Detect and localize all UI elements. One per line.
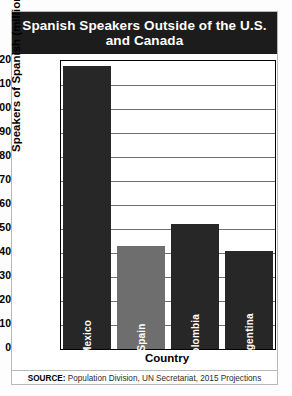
x-axis-label: Country [60,352,274,364]
y-tick-label: 70 [0,173,11,185]
chart-area: Speakers of Spanish (millions) MexicoSpa… [12,56,277,356]
bar-series: MexicoSpainColombiaArgentina [61,61,275,349]
bar-argentina[interactable]: Argentina [225,251,273,349]
y-tick-label: 90 [0,125,11,137]
source-label: SOURCE: [28,374,66,383]
y-tick-label: 50 [0,221,11,233]
y-tick-label: 40 [0,245,11,257]
y-tick-label: 30 [0,269,11,281]
y-tick-label: 60 [0,197,11,209]
y-tick-label: 20 [0,293,11,305]
bar-spain[interactable]: Spain [117,246,165,349]
screenshot-root: Spanish Speakers Outside of the U.S. and… [0,0,292,396]
y-tick-label: 0 [0,341,11,353]
source-note: SOURCE: Population Division, UN Secretar… [12,370,277,383]
bar-mexico[interactable]: Mexico [63,66,111,349]
plot-area: MexicoSpainColombiaArgentina [60,60,276,350]
chart-title-band: Spanish Speakers Outside of the U.S. and… [12,12,277,54]
y-tick-label: 110 [0,77,11,89]
y-tick-label: 100 [0,101,11,113]
source-text: Population Division, UN Secretariat, 201… [66,374,262,383]
y-tick-label: 80 [0,149,11,161]
y-tick-label: 10 [0,317,11,329]
bar-label: Mexico [82,320,93,355]
bar-label: Spain [136,323,147,351]
y-tick-label: 120 [0,53,11,65]
bar-colombia[interactable]: Colombia [171,224,219,349]
page-title: Spanish Speakers Outside of the U.S. and… [12,18,277,48]
y-axis-label: Speakers of Spanish (millions) [10,0,22,152]
